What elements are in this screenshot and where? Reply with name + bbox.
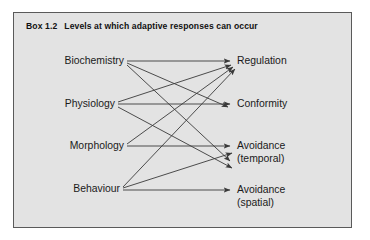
node-conformity-label: Conformity — [237, 98, 287, 109]
node-biochemistry-label: Biochemistry — [65, 55, 124, 66]
node-avoidance-temporal-label: Avoidance — [237, 140, 285, 151]
levels-diagram: Biochemistry Physiology Morphology Behav… — [14, 13, 353, 229]
node-avoidance-temporal-sublabel: (temporal) — [237, 152, 285, 165]
edge-behaviour-regulation — [123, 69, 235, 187]
edge-biochemistry-conformity — [127, 63, 228, 107]
node-conformity: Conformity — [237, 98, 287, 110]
node-avoidance-spatial-label: Avoidance — [237, 184, 285, 195]
edge-behaviour-avoidance-temporal — [123, 153, 232, 188]
figure-root: Box 1.2Levels at which adaptive response… — [0, 0, 370, 240]
node-morphology-label: Morphology — [70, 140, 124, 151]
node-physiology: Physiology — [24, 98, 115, 110]
node-behaviour-label: Behaviour — [73, 183, 120, 194]
node-biochemistry: Biochemistry — [24, 55, 124, 67]
edge-morphology-regulation — [127, 67, 233, 144]
edge-biochemistry-avoidance-temporal — [127, 65, 230, 161]
node-behaviour: Behaviour — [24, 183, 120, 195]
box-panel: Box 1.2Levels at which adaptive response… — [13, 12, 352, 228]
node-avoidance-temporal: Avoidance (temporal) — [237, 140, 285, 165]
node-morphology: Morphology — [24, 140, 124, 152]
node-avoidance-spatial: Avoidance (spatial) — [237, 184, 285, 209]
edge-physiology-regulation — [118, 65, 231, 102]
node-regulation-label: Regulation — [237, 55, 287, 66]
node-physiology-label: Physiology — [65, 98, 115, 109]
node-avoidance-spatial-sublabel: (spatial) — [237, 196, 285, 209]
diagram-edges — [14, 13, 353, 229]
node-regulation: Regulation — [237, 55, 287, 67]
